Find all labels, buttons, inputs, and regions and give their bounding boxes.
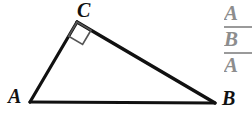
answer-choice-item[interactable]: A — [224, 0, 252, 26]
vertex-label-b: B — [222, 88, 235, 108]
answer-choice-letter: B — [224, 27, 238, 51]
vertex-label-a: A — [8, 86, 21, 106]
answer-choice-list: A B A — [224, 0, 252, 78]
geometry-figure: A B C A B A — [0, 0, 252, 125]
answer-choice-letter: A — [224, 53, 238, 77]
answer-choice-item[interactable]: A — [224, 52, 252, 78]
vertex-label-c: C — [77, 0, 90, 20]
answer-choice-letter: A — [224, 1, 238, 25]
figure-background — [0, 0, 252, 125]
answer-choice-item[interactable]: B — [224, 26, 252, 52]
triangle-side-AB — [30, 102, 215, 103]
triangle-shape — [0, 0, 252, 125]
